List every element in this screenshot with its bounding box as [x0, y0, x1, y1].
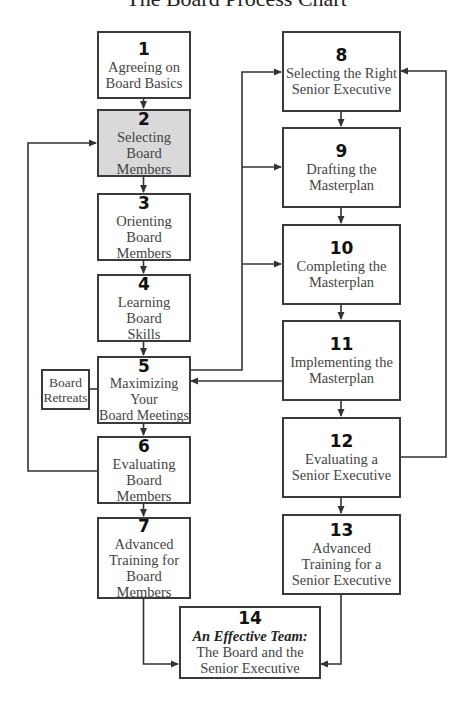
step-9-box: 9 Drafting the Masterplan [282, 127, 401, 208]
step-label: Learning Board Skills [99, 294, 189, 342]
loop-6-to-2 [28, 143, 97, 471]
step-12-box: 12 Evaluating a Senior Executive [282, 417, 401, 498]
step-number: 2 [138, 110, 150, 128]
step-label: Agreeing on Board Basics [106, 59, 183, 91]
step-number: 11 [330, 335, 354, 353]
step-number: 13 [330, 521, 354, 539]
step-1-box: 1 Agreeing on Board Basics [97, 31, 191, 99]
step-7-box: 7 Advanced Training for Board Members [97, 517, 191, 599]
arrow-5-to-8 [190, 72, 281, 370]
step-label: Maximizing Your Board Meetings [99, 376, 189, 424]
step-number: 4 [138, 275, 150, 293]
step-label: Evaluating Board Members [99, 456, 189, 504]
side-note-label: Board Retreats [43, 375, 87, 405]
step-number: 10 [330, 239, 354, 257]
step-label: Implementing the Masterplan [290, 354, 393, 386]
step-label: Drafting the Masterplan [306, 161, 376, 193]
step-14-box: 14 An Effective Team: The Board and the … [179, 606, 321, 679]
step-label: Advanced Training for Board Members [99, 536, 189, 600]
step-label: Advanced Training for a Senior Executive [292, 540, 391, 588]
arrow-13-to-14 [321, 594, 341, 664]
step-label: Selecting the Right Senior Executive [286, 65, 397, 97]
step-6-box: 6 Evaluating Board Members [97, 436, 191, 504]
step-label: Selecting Board Members [99, 129, 189, 177]
step-number: 8 [336, 46, 348, 64]
step-number: 12 [330, 432, 354, 450]
step-5-box: 5 Maximizing Your Board Meetings [97, 356, 191, 424]
step-number: 5 [138, 357, 150, 375]
step-8-box: 8 Selecting the Right Senior Executive [282, 31, 401, 112]
step-emphasis: An Effective Team: [192, 628, 307, 644]
step-11-box: 11 Implementing the Masterplan [282, 320, 401, 401]
step-4-box: 4 Learning Board Skills [97, 274, 191, 342]
loop-12-to-8 [400, 71, 446, 457]
step-label: The Board and the Senior Executive [196, 644, 304, 676]
step-number: 7 [138, 517, 150, 535]
step-10-box: 10 Completing the Masterplan [282, 224, 401, 305]
step-label: Orienting Board Members [99, 213, 189, 261]
step-number: 1 [138, 40, 150, 58]
board-retreats-box: Board Retreats [41, 369, 90, 410]
arrow-7-to-14 [144, 598, 179, 664]
connectors [0, 0, 473, 707]
step-number: 6 [138, 437, 150, 455]
step-label: Evaluating a Senior Executive [292, 451, 391, 483]
step-number: 3 [138, 194, 150, 212]
step-number: 14 [238, 609, 262, 627]
step-3-box: 3 Orienting Board Members [97, 193, 191, 261]
step-2-box: 2 Selecting Board Members [97, 109, 191, 177]
step-13-box: 13 Advanced Training for a Senior Execut… [282, 514, 401, 595]
step-number: 9 [336, 142, 348, 160]
step-label: Completing the Masterplan [297, 258, 387, 290]
